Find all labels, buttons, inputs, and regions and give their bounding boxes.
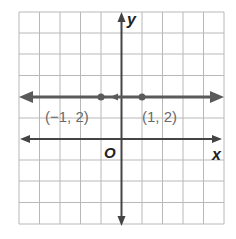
x-axis-left-arrow-icon [20, 135, 30, 143]
point-1-2 [139, 94, 146, 101]
point-label-1-2: (1, 2) [142, 108, 177, 125]
line-left-arrow-icon [19, 91, 33, 103]
line-right-arrow-icon [210, 91, 224, 103]
line-small-arrow-icon [110, 94, 118, 101]
origin-label: O [104, 144, 116, 161]
x-axis-label: x [211, 146, 222, 163]
point-neg1-2 [98, 94, 105, 101]
x-axis-right-arrow-icon [212, 135, 222, 143]
point-label-neg1-2: (−1, 2) [45, 108, 89, 125]
coordinate-plane: (−1, 2) (1, 2) O x y [0, 0, 236, 239]
y-axis-up-arrow-icon [118, 12, 126, 22]
y-axis-label: y [126, 11, 137, 28]
